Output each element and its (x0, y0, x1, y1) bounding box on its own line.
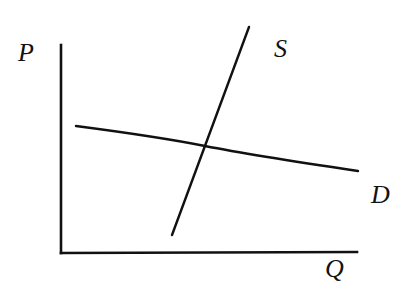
demand-curve (76, 126, 358, 171)
supply-demand-diagram: P S D Q (0, 0, 414, 294)
supply-curve-label: S (274, 36, 287, 62)
quantity-axis-label: Q (325, 256, 344, 282)
demand-curve-label: D (371, 182, 390, 208)
diagram-graphic (0, 0, 414, 294)
quantity-axis-line (61, 252, 357, 253)
supply-curve (172, 27, 249, 235)
price-axis-label: P (18, 40, 34, 66)
